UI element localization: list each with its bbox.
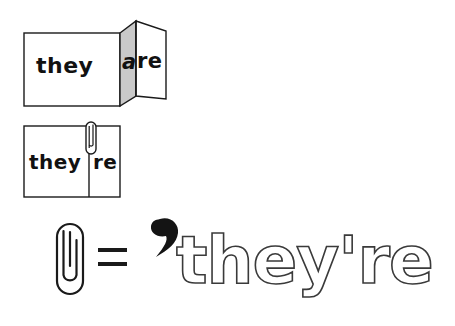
worksheet-canvas: they a re they re they're <box>0 0 455 326</box>
open-card-flap-word: re <box>137 51 163 72</box>
closed-card-right-word: re <box>93 152 117 172</box>
paperclip-icon-large <box>57 224 83 294</box>
apostrophe-icon <box>151 218 178 257</box>
open-card-front-word: they <box>36 55 93 77</box>
equals-sign-bottom-bar <box>98 262 127 266</box>
contraction-result-text: they're <box>176 228 433 294</box>
closed-card-left-word: they <box>29 152 81 172</box>
open-card-shaded-word: a <box>122 52 137 73</box>
equals-sign-top-bar <box>98 248 127 252</box>
